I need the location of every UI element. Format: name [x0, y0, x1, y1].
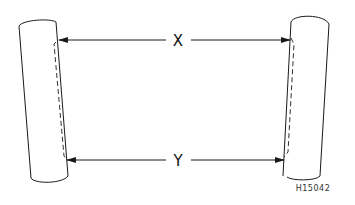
left-cylinder-left-edge: [19, 26, 31, 178]
right-cylinder-bottom-cap: [287, 176, 320, 180]
right-cylinder-right-edge: [320, 24, 329, 176]
right-cylinder-top-cap: [291, 16, 329, 24]
dimension-y-label: Y: [172, 152, 183, 170]
reference-code: H15042: [296, 184, 330, 193]
left-cylinder-right-edge: [56, 22, 68, 176]
right-cylinder: [283, 16, 329, 180]
dimension-x-label: X: [173, 32, 183, 50]
toe-in-diagram: X Y H15042: [0, 0, 355, 205]
left-cylinder: [19, 20, 68, 182]
left-cylinder-top-cap: [19, 20, 56, 26]
dimension-y: Y: [67, 152, 284, 170]
dimension-x: X: [59, 32, 290, 50]
left-cylinder-bottom-cap: [31, 176, 68, 182]
